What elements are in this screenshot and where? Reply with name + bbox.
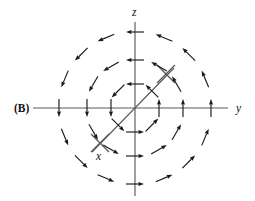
outer-ring-vector [182, 159, 191, 168]
outer-ring-vector [156, 177, 168, 182]
inner-ring-vector [116, 85, 125, 94]
middle-ring-vector-head [103, 66, 109, 70]
middle-ring-vector [92, 76, 98, 87]
outer-ring-vector [63, 71, 68, 83]
middle-ring-vector [175, 81, 181, 92]
inner-ring-vector [112, 119, 121, 128]
inner-ring-vector-head [109, 112, 113, 118]
outer-ring-vector-head [167, 175, 173, 179]
middle-ring-vector-head [181, 99, 185, 105]
outer-ring-vector-head [126, 30, 132, 34]
outer-ring-vector-head [57, 112, 61, 118]
middle-ring-vector-head [151, 62, 157, 66]
middle-ring-vector [151, 148, 162, 154]
outer-ring-vector [202, 134, 207, 146]
axes-group [33, 22, 228, 196]
outer-ring-vector [161, 36, 173, 41]
z-axis-label: z [131, 6, 137, 18]
middle-ring-vector-head [139, 154, 145, 158]
inner-ring-vector-head [139, 130, 145, 134]
outer-ring-vector-head [108, 178, 114, 182]
outer-ring-vector-head [64, 140, 68, 146]
outer-ring-vector [103, 34, 115, 39]
inner-ring-vector-head [157, 99, 161, 105]
outer-ring-vector [61, 129, 66, 141]
y-axis-label: y [235, 102, 242, 115]
outer-ring-vector [75, 155, 84, 164]
inner-ring-vector [149, 89, 158, 98]
middle-ring-vector [89, 124, 95, 135]
outer-ring-vector-head [205, 129, 209, 135]
middle-ring-vector-head [177, 124, 181, 130]
middle-ring-vector-head [85, 112, 89, 118]
middle-ring-vector-head [113, 150, 119, 154]
inner-ring-vector [146, 122, 155, 131]
outer-ring-vector [79, 48, 88, 57]
panel-label: (B) [14, 102, 30, 115]
middle-ring-vector-head [89, 86, 93, 92]
field-diagram-figure: (B) z y x [0, 0, 255, 201]
middle-ring-vector-head [161, 145, 167, 149]
inner-ring-vector-head [126, 82, 132, 86]
outer-ring-vector [98, 175, 110, 180]
middle-ring-vector [172, 129, 178, 140]
outer-ring-vector [204, 76, 209, 88]
outer-ring-vector [186, 52, 195, 61]
outer-ring-vector-head [209, 99, 213, 105]
outer-ring-vector-head [98, 37, 104, 41]
middle-ring-vector [108, 62, 119, 68]
x-axis-label: x [95, 150, 102, 162]
middle-ring-vector-head [126, 58, 132, 62]
outer-ring-vector-head [139, 182, 145, 186]
outer-ring-vector-head [156, 34, 162, 38]
field-diagram-canvas: (B) z y x [0, 0, 255, 201]
outer-ring-vector-head [61, 81, 65, 87]
outer-ring-vector-head [202, 71, 206, 77]
